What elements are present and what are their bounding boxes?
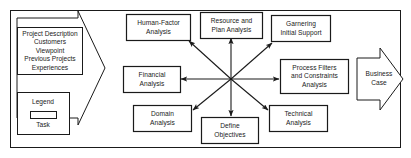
task-box-domain-analysis[interactable] bbox=[134, 106, 192, 132]
legend-task-swatch bbox=[31, 112, 57, 119]
process-diagram: Project Description Customers Viewpoint … bbox=[0, 0, 411, 158]
task-box-technical-analysis[interactable] bbox=[270, 106, 328, 132]
input-line-4: Previous Projects bbox=[24, 55, 75, 64]
task-box-financial-analysis[interactable] bbox=[124, 67, 181, 93]
arrow-to-technical-analysis bbox=[231, 79, 268, 110]
task-box-human-factor-analysis[interactable] bbox=[127, 15, 191, 41]
task-box-define-objectives[interactable] bbox=[202, 118, 259, 144]
task-box-resource-and-plan-analysis[interactable] bbox=[201, 13, 263, 39]
input-line-1: Project Description bbox=[22, 30, 77, 39]
project-description-input-text: Project Description Customers Viewpoint … bbox=[17, 27, 83, 75]
input-line-5: Experiences bbox=[32, 64, 68, 73]
task-box-garnering-initial-support[interactable] bbox=[272, 16, 331, 42]
arrow-to-human-factor-analysis bbox=[189, 41, 231, 79]
input-line-2: Customers bbox=[34, 38, 66, 47]
business-case-output-text: Business Case bbox=[357, 66, 401, 92]
legend-title: Legend bbox=[19, 98, 67, 105]
arrow-to-garnering-initial-support bbox=[231, 43, 272, 79]
task-box-process-filters-and-constraints-analysis[interactable] bbox=[281, 60, 349, 94]
arrow-to-domain-analysis bbox=[193, 79, 231, 110]
input-line-3: Viewpoint bbox=[36, 47, 64, 56]
diagram-canvas bbox=[0, 0, 411, 158]
legend-task-label: Task bbox=[19, 121, 67, 128]
output-line-1: Business bbox=[366, 70, 393, 79]
output-line-2: Case bbox=[371, 79, 386, 88]
